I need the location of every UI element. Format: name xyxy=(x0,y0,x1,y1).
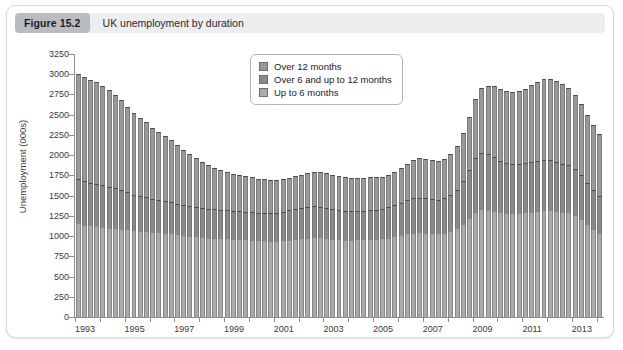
chart-bar-segment xyxy=(411,234,416,317)
x-axis-tick-mark xyxy=(423,318,424,322)
y-axis-tick-mark xyxy=(69,236,74,237)
y-axis-tick-mark xyxy=(69,155,74,156)
chart-bar xyxy=(312,172,317,317)
chart-bar xyxy=(305,173,310,317)
y-axis-tick-label: 750 xyxy=(25,251,69,261)
chart-bar-segment xyxy=(125,230,130,317)
chart-bar-segment xyxy=(268,213,273,242)
chart-bar-segment xyxy=(262,241,267,317)
chart-bar-segment xyxy=(163,136,168,201)
legend-item: Over 6 and up to 12 months xyxy=(259,73,392,86)
x-axis-tick-label: 1995 xyxy=(125,324,145,334)
chart-bar xyxy=(591,125,596,317)
figure-title: UK unemployment by duration xyxy=(103,17,244,29)
chart-bar-segment xyxy=(548,211,553,317)
chart-bar-segment xyxy=(281,241,286,317)
chart-bar-segment xyxy=(274,180,279,213)
chart-bar-segment xyxy=(181,205,186,236)
chart-bar xyxy=(399,168,404,317)
chart-bar-segment xyxy=(250,177,255,212)
chart-bar-segment xyxy=(355,211,360,241)
chart-bar-segment xyxy=(473,99,478,158)
y-axis-tick-label: 2000 xyxy=(25,150,69,160)
figure-header: Figure 15.2 UK unemployment by duration xyxy=(15,13,605,33)
chart-bar-segment xyxy=(206,209,211,239)
chart-bar-segment xyxy=(343,177,348,211)
chart-bar-segment xyxy=(94,184,99,227)
chart-bar-segment xyxy=(250,241,255,317)
chart-bar-segment xyxy=(138,232,143,317)
x-axis-tick-label: 1997 xyxy=(174,324,194,334)
chart-bar-segment xyxy=(281,179,286,211)
chart-bar-segment xyxy=(535,82,540,161)
chart-bar-segment xyxy=(113,188,118,229)
x-axis-line xyxy=(74,317,604,318)
chart-bar xyxy=(448,154,453,317)
chart-bar xyxy=(392,172,397,317)
chart-bar-segment xyxy=(281,212,286,242)
chart-bar-segment xyxy=(175,145,180,203)
chart-bar-segment xyxy=(107,90,112,186)
x-axis-tick-mark xyxy=(497,318,498,322)
chart-bar-segment xyxy=(312,206,317,238)
chart-bar-segment xyxy=(430,234,435,317)
y-axis-tick-mark xyxy=(69,175,74,176)
chart-bar xyxy=(417,158,422,317)
legend-label: Over 12 months xyxy=(274,61,342,72)
chart-bar-segment xyxy=(138,118,143,196)
x-axis-tick-mark xyxy=(547,318,548,322)
chart-bar-segment xyxy=(380,177,385,209)
chart-bar-segment xyxy=(293,209,298,240)
chart-bar-segment xyxy=(125,107,130,193)
chart-bar-segment xyxy=(405,200,410,234)
chart-bar xyxy=(107,90,112,317)
legend-label: Over 6 and up to 12 months xyxy=(274,74,392,85)
chart-bar-segment xyxy=(579,175,584,220)
chart-bar xyxy=(324,173,329,317)
chart-bar-segment xyxy=(455,146,460,189)
chart-bar-segment xyxy=(305,173,310,207)
chart-bar-segment xyxy=(76,224,81,317)
chart-bar xyxy=(125,107,130,317)
y-axis-tick-label: 250 xyxy=(25,292,69,302)
chart-bar-segment xyxy=(573,95,578,169)
chart-bar-segment xyxy=(585,225,590,317)
y-axis-tick-mark xyxy=(69,216,74,217)
chart-bar-segment xyxy=(132,231,137,317)
chart-bar-segment xyxy=(423,159,428,199)
chart-bar-segment xyxy=(305,239,310,317)
chart-bar-segment xyxy=(492,212,497,317)
chart-bar xyxy=(504,91,509,317)
chart-bar-segment xyxy=(299,239,304,317)
chart-bar-segment xyxy=(399,203,404,236)
chart-bar-segment xyxy=(430,160,435,200)
x-axis-tick-mark xyxy=(299,318,300,322)
chart-bar-segment xyxy=(287,210,292,240)
chart-bar-segment xyxy=(349,241,354,317)
chart-bar-segment xyxy=(585,115,590,183)
chart-bar-segment xyxy=(529,162,534,213)
chart-bar-segment xyxy=(411,160,416,198)
chart-bar-segment xyxy=(399,168,404,203)
x-axis-tick-label: 1999 xyxy=(224,324,244,334)
chart-bar-segment xyxy=(548,160,553,211)
chart-bar-segment xyxy=(212,209,217,239)
chart-bar-segment xyxy=(442,159,447,199)
y-axis-tick-mark xyxy=(69,256,74,257)
chart-bar-segment xyxy=(250,212,255,240)
chart-bar-segment xyxy=(181,150,186,205)
x-axis-tick-mark xyxy=(522,318,523,322)
chart-bar-segment xyxy=(461,133,466,180)
chart-bar-segment xyxy=(218,239,223,317)
chart-bar-segment xyxy=(591,190,596,230)
chart-bar-segment xyxy=(225,210,230,239)
x-axis-tick-label: 1993 xyxy=(75,324,95,334)
chart-bar-segment xyxy=(560,84,565,163)
chart-bar xyxy=(430,160,435,317)
chart-bar-segment xyxy=(231,174,236,211)
chart-bar-segment xyxy=(212,239,217,317)
chart-bar-segment xyxy=(330,240,335,317)
chart-bar xyxy=(318,172,323,317)
chart-bar-segment xyxy=(579,104,584,175)
chart-bar-segment xyxy=(448,195,453,232)
